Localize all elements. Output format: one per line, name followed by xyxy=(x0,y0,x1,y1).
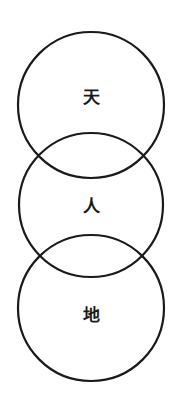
label-human: 人 xyxy=(83,196,101,216)
label-earth: 地 xyxy=(83,305,100,325)
three-circles-diagram: 天 人 地 xyxy=(0,0,178,403)
label-heaven: 天 xyxy=(83,87,101,107)
